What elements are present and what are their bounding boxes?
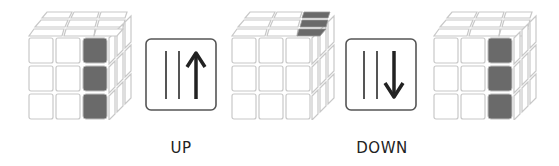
move-down-icon [344, 37, 418, 112]
cube-illustration [27, 10, 139, 120]
cube-illustration [432, 10, 544, 120]
move-up-icon [144, 37, 218, 112]
cube-illustration [230, 10, 342, 120]
cube-front-right-highlighted-1 [27, 10, 139, 120]
move-label-down: DOWN [342, 139, 422, 157]
cube-front-right-highlighted-2 [432, 10, 544, 120]
move-label-up: UP [141, 139, 221, 157]
cube-top-right-highlighted [230, 10, 342, 120]
